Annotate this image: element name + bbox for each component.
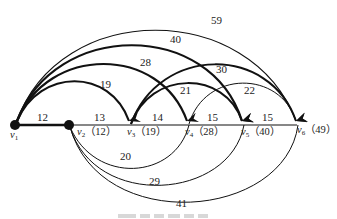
weight-v5-v6: 15: [262, 111, 274, 123]
weight-v3-v6: 30: [216, 63, 228, 75]
weight-v2-v4: 20: [120, 150, 132, 162]
label-v6: v6（49）: [297, 124, 336, 137]
arc-v4-v6: [189, 83, 296, 124]
upper-arcs: [17, 30, 296, 124]
node-labels: v1 v2（12） v3（19） v4（28） v5（40） v6（49）: [10, 124, 336, 142]
arc-v1-v5: [17, 45, 242, 121]
weight-v1-v5: 40: [170, 33, 182, 45]
graph-diagram: 12 13 14 15 15 19 28 40 59 21 30 22 20 2…: [0, 0, 337, 219]
arc-v1-v3: [17, 81, 129, 121]
weight-v1-v3: 19: [100, 78, 112, 90]
cut-off-caption: [118, 214, 248, 219]
weight-v3-v5: 21: [180, 84, 191, 96]
label-v1: v1: [10, 129, 19, 142]
weight-v1-v2: 12: [37, 111, 48, 123]
weight-v2-v5: 29: [149, 175, 161, 187]
weight-v1-v6: 59: [211, 14, 223, 26]
weight-v4-v6: 22: [244, 84, 255, 96]
weight-v1-v4: 28: [140, 56, 152, 68]
weight-v2-v6: 41: [176, 197, 187, 209]
weight-v4-v5: 15: [207, 111, 219, 123]
label-v5: v5（40）: [241, 126, 280, 139]
weight-v3-v4: 14: [152, 111, 164, 123]
node-v2: [64, 120, 74, 130]
label-v2: v2（12）: [77, 126, 116, 139]
label-v3: v3（19）: [127, 126, 166, 139]
label-v4: v4（28）: [185, 126, 224, 139]
weight-v2-v3: 13: [94, 111, 106, 123]
